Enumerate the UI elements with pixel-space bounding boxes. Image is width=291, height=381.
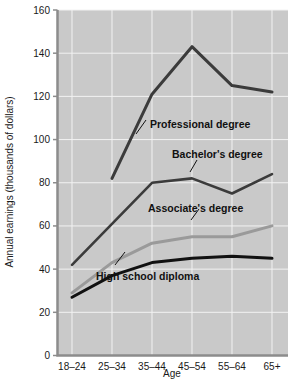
y-tick-label-60: 60 [39,220,51,231]
x-tick-label-4: 55–64 [218,361,246,372]
y-tick-label-100: 100 [33,134,50,145]
x-tick-label-2: 35–44 [138,361,166,372]
series-label-associates: Associate's degree [148,202,243,214]
y-tick-label-120: 120 [33,91,50,102]
chart-canvas: 160140120100806040200 18–2425–3435–4445–… [0,0,291,381]
x-tick-label-1: 25–34 [98,361,126,372]
y-axis-tick-labels: 160140120100806040200 [33,5,50,362]
y-tick-label-140: 140 [33,48,50,59]
series-label-highschool: High school diploma [96,270,199,282]
earnings-by-education-chart: 160140120100806040200 18–2425–3435–4445–… [0,0,291,381]
x-axis-title: Age [163,368,181,379]
x-tick-label-0: 18–24 [58,361,86,372]
series-label-professional: Professional degree [150,118,251,130]
y-tick-label-40: 40 [39,264,51,275]
y-tick-label-0: 0 [44,350,50,361]
y-tick-label-20: 20 [39,307,51,318]
x-tick-label-5: 65+ [264,361,281,372]
y-axis-title: Annual earnings (thousands of dollars) [4,96,15,267]
series-label-bachelors: Bachelor's degree [172,148,263,160]
y-tick-label-160: 160 [33,5,50,16]
y-tick-label-80: 80 [39,177,51,188]
x-tick-label-3: 45–54 [178,361,206,372]
